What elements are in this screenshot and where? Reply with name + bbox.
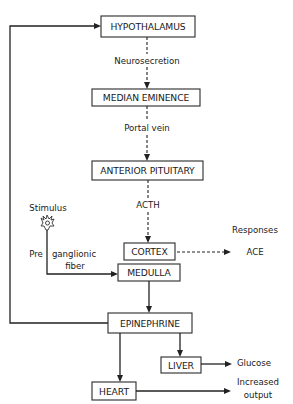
- node-median-eminence-label: MEDIAN EMINENCE: [103, 92, 190, 103]
- heart-to-output-arrow: [136, 388, 231, 394]
- node-hypothalamus-label: HYPOTHALAMUS: [111, 21, 186, 32]
- stress-response-flowchart: HYPOTHALAMUS Neurosecretion MEDIAN EMINE…: [0, 0, 293, 404]
- neuron-icon: [41, 215, 54, 230]
- label-responses: Responses: [232, 225, 278, 235]
- node-medulla-label: MEDULLA: [127, 267, 171, 278]
- label-glucose: Glucose: [237, 358, 271, 368]
- label-output: output: [244, 390, 273, 400]
- node-heart: HEART: [92, 382, 136, 400]
- responses-arrow: [177, 249, 231, 255]
- node-liver-label: LIVER: [168, 360, 195, 371]
- node-heart-label: HEART: [99, 386, 129, 397]
- label-pre: Pre: [29, 249, 43, 259]
- label-acth: ACTH: [136, 200, 159, 210]
- label-fiber: fiber: [65, 261, 85, 271]
- node-cortex: CORTEX: [124, 243, 175, 260]
- node-anterior-pituitary-label: ANTERIOR PITUITARY: [100, 165, 195, 176]
- node-hypothalamus: HYPOTHALAMUS: [101, 16, 195, 37]
- liver-to-glucose-arrow: [201, 361, 232, 367]
- node-epinephrine: EPINEPHRINE: [108, 313, 192, 333]
- label-ganglionic: ganglionic: [52, 249, 96, 259]
- label-portal-vein: Portal vein: [124, 123, 170, 133]
- label-increased: Increased: [237, 377, 279, 387]
- node-median-eminence: MEDIAN EMINENCE: [92, 89, 200, 106]
- label-stimulus: Stimulus: [29, 203, 67, 213]
- label-ace: ACE: [246, 247, 263, 257]
- acth-arrow: [145, 180, 151, 243]
- node-liver: LIVER: [161, 357, 201, 373]
- epinephrine-to-liver-arrow: [177, 333, 183, 357]
- node-cortex-label: CORTEX: [131, 246, 167, 257]
- node-anterior-pituitary: ANTERIOR PITUITARY: [92, 161, 203, 180]
- portal-vein-arrow: [144, 106, 150, 161]
- label-neurosecretion: Neurosecretion: [114, 56, 179, 66]
- node-medulla: MEDULLA: [118, 264, 180, 281]
- node-epinephrine-label: EPINEPHRINE: [120, 318, 180, 329]
- medulla-to-epinephrine-arrow: [146, 281, 152, 313]
- epinephrine-to-heart-arrow: [117, 333, 123, 382]
